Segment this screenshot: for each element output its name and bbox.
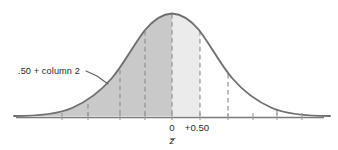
axis-label-zbar: z̅ <box>169 135 176 146</box>
callout-label: .50 + column 2 <box>18 66 80 76</box>
axis-label-zero: 0 <box>169 122 174 133</box>
callout-leader-line <box>86 71 108 84</box>
axis-label-half: +0.50 <box>185 122 209 133</box>
distribution-chart-svg: .50 + column 2 0 +0.50 z̅ <box>0 0 338 150</box>
normal-distribution-figure: .50 + column 2 0 +0.50 z̅ <box>0 0 338 150</box>
